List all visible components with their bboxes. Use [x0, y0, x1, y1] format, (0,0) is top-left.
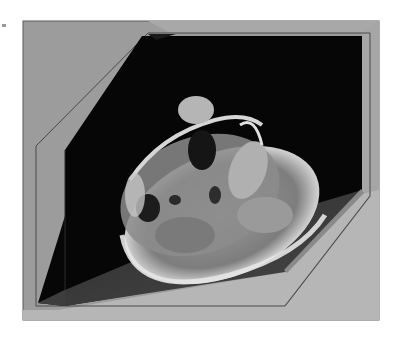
mri-3d-scene [0, 0, 399, 337]
